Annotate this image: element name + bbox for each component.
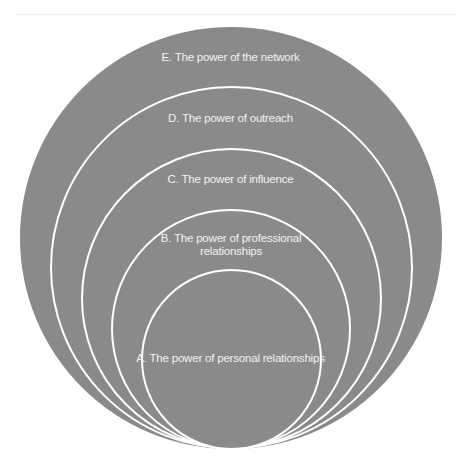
top-divider (15, 14, 455, 15)
label-d: D. The power of outreach (0, 112, 461, 125)
label-b: B. The power of professional relationshi… (160, 232, 302, 258)
label-c: C. The power of influence (0, 173, 461, 186)
label-a: A. The power of personal relationships (0, 352, 461, 365)
label-e: E. The power of the network (0, 51, 461, 64)
